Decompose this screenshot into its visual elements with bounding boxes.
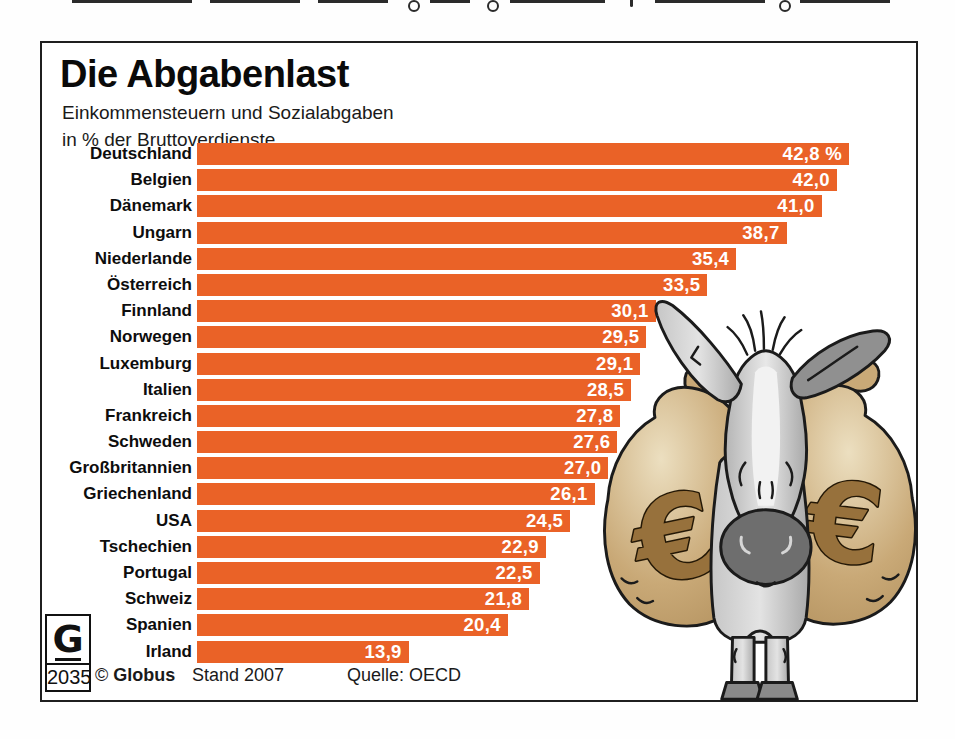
donkey-legs — [722, 637, 798, 699]
bar-value-label: 13,9 — [365, 641, 409, 663]
country-label: Italien — [46, 380, 192, 400]
bar-value-label: 22,5 — [496, 562, 540, 584]
bar: 27,8 — [197, 405, 620, 427]
bar: 29,1 — [197, 353, 640, 375]
chart-row: Deutschland42,8 % — [46, 143, 916, 165]
bar: 22,9 — [197, 536, 546, 558]
country-label: Ungarn — [46, 223, 192, 243]
bar-track: 38,7 — [197, 222, 852, 244]
globus-logo-stand — [55, 658, 81, 661]
country-label: Schweden — [46, 432, 192, 452]
country-label: Frankreich — [46, 406, 192, 426]
bar-track: 42,0 — [197, 169, 852, 191]
bar-value-label: 42,0 — [793, 169, 837, 191]
chart-row: Ungarn38,7 — [46, 222, 916, 244]
bar: 26,1 — [197, 483, 595, 505]
bar-value-label: 35,4 — [692, 248, 736, 270]
country-label: Österreich — [46, 275, 192, 295]
bar-value-label: 38,7 — [742, 222, 786, 244]
country-label: Tschechien — [46, 537, 192, 557]
bar-value-label: 42,8 % — [783, 143, 849, 165]
bar: 28,5 — [197, 379, 631, 401]
country-label: Dänemark — [46, 196, 192, 216]
bar: 38,7 — [197, 222, 787, 244]
bar: 41,0 — [197, 195, 822, 217]
country-label: Norwegen — [46, 327, 192, 347]
country-label: Griechenland — [46, 484, 192, 504]
bar: 29,5 — [197, 326, 646, 348]
bar: 30,1 — [197, 300, 656, 322]
cropped-print-text-fragments — [0, 0, 955, 10]
donkey-moneybags-illustration: € € — [598, 289, 922, 703]
bar: 13,9 — [197, 641, 409, 663]
bar: 20,4 — [197, 614, 508, 636]
bar: 27,6 — [197, 431, 617, 453]
bar-value-label: 21,8 — [485, 588, 529, 610]
bar-value-label: 41,0 — [777, 195, 821, 217]
country-label: Deutschland — [46, 144, 192, 164]
country-label: Finnland — [46, 301, 192, 321]
bar-track: 42,8 % — [197, 143, 852, 165]
copyright-note: © Globus — [95, 665, 175, 686]
bar-value-label: 20,4 — [464, 614, 508, 636]
bar: 35,4 — [197, 248, 736, 270]
country-label: Luxemburg — [46, 354, 192, 374]
copyright-symbol: © — [95, 665, 113, 685]
brand-name: Globus — [113, 665, 175, 685]
chart-title: Die Abgabenlast — [60, 53, 349, 96]
bar: 21,8 — [197, 588, 529, 610]
bar: 22,5 — [197, 562, 540, 584]
country-label: USA — [46, 511, 192, 531]
bar-value-label: 26,1 — [550, 483, 594, 505]
chart-row: Niederlande35,4 — [46, 248, 916, 270]
bar-track: 41,0 — [197, 195, 852, 217]
donkey-muzzle — [721, 510, 811, 585]
country-label: Großbritannien — [46, 458, 192, 478]
country-label: Niederlande — [46, 249, 192, 269]
bar-value-label: 22,9 — [502, 536, 546, 558]
chart-row: Dänemark41,0 — [46, 195, 916, 217]
country-label: Schweiz — [46, 589, 192, 609]
donkey-forelock — [728, 311, 802, 354]
country-label: Belgien — [46, 170, 192, 190]
globus-logo-icon: G — [47, 616, 89, 663]
country-label: Portugal — [46, 563, 192, 583]
data-year-note: Stand 2007 — [192, 665, 284, 686]
bar: 42,8 % — [197, 143, 849, 165]
bar: 24,5 — [197, 510, 570, 532]
globus-graphic-number: 2035 — [47, 663, 89, 690]
infographic-frame: Die Abgabenlast Einkommensteuern und Soz… — [40, 41, 918, 702]
chart-subtitle-line1: Einkommensteuern und Sozialabgaben — [62, 102, 394, 124]
chart-row: Belgien42,0 — [46, 169, 916, 191]
bar: 42,0 — [197, 169, 837, 191]
globus-logo: G 2035 — [45, 614, 91, 692]
source-note: Quelle: OECD — [347, 665, 461, 686]
bar: 27,0 — [197, 457, 608, 479]
globus-logo-letter: G — [52, 617, 83, 661]
bar-value-label: 24,5 — [526, 510, 570, 532]
bar-track: 35,4 — [197, 248, 852, 270]
